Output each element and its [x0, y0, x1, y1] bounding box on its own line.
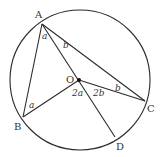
label-d: D [116, 141, 124, 152]
angle-label-abo-a: a [29, 100, 34, 110]
label-b: B [14, 121, 21, 132]
angle-label-oca-b: b [115, 83, 121, 93]
label-a: A [34, 9, 43, 20]
angle-label-bac-a: a [42, 31, 47, 41]
point-labels: A B C D O [14, 9, 155, 152]
angle-label-bod-2a: 2a [71, 88, 83, 98]
label-o: O [66, 74, 74, 85]
angle-labels: a b a b 2a 2b [29, 31, 121, 110]
angle-label-doc-2b: 2b [92, 88, 105, 98]
segment-ob [23, 80, 79, 117]
center-point-o [77, 78, 81, 82]
label-c: C [147, 103, 155, 114]
segment-oc [79, 80, 145, 101]
circle-geometry-diagram: A B C D O a b a b 2a 2b [0, 0, 163, 157]
angle-label-oac-b: b [63, 40, 69, 50]
